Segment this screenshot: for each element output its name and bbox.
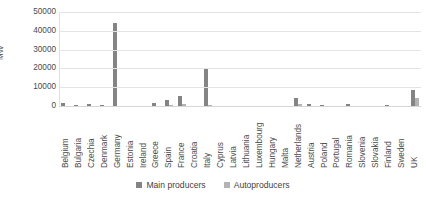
gridline xyxy=(59,68,421,69)
gridline xyxy=(59,50,421,51)
legend-entry[interactable]: Main producers xyxy=(136,181,205,190)
bar-group xyxy=(318,12,331,106)
legend-entry[interactable]: Autoproducers xyxy=(224,181,290,190)
bar-group xyxy=(279,12,292,106)
gridline xyxy=(59,12,421,13)
bar-group xyxy=(408,12,421,106)
bar-group xyxy=(201,12,214,106)
bar-group xyxy=(137,12,150,106)
x-axis-tick-label: Italy xyxy=(203,108,212,168)
bar-group xyxy=(72,12,85,106)
plot-area xyxy=(59,12,421,106)
legend-label: Main producers xyxy=(146,181,205,190)
x-axis-tick-label: Spain xyxy=(164,108,173,168)
bar-group xyxy=(395,12,408,106)
x-axis-category-labels: BelgiumBulgariaCzechiaDenmarkGermanyEsto… xyxy=(59,108,421,170)
bar-group xyxy=(356,12,369,106)
gridline xyxy=(59,31,421,32)
x-axis-tick-label: France xyxy=(177,108,186,168)
chart-legend: Main producersAutoproducers xyxy=(0,177,426,193)
legend-swatch-icon xyxy=(136,182,142,188)
x-axis-tick-label: UK xyxy=(410,108,419,168)
gridline xyxy=(59,87,421,88)
legend-label: Autoproducers xyxy=(234,181,290,190)
x-axis-tick-label: Latvia xyxy=(229,108,238,168)
bar-group xyxy=(305,12,318,106)
x-axis-tick-label: Romania xyxy=(345,108,354,168)
x-axis-tick-label: Slovakia xyxy=(371,108,380,168)
y-axis-tick-label: 30000 xyxy=(33,46,56,54)
bar-group xyxy=(111,12,124,106)
bar-group xyxy=(85,12,98,106)
bar-group xyxy=(266,12,279,106)
x-axis-tick-label: Poland xyxy=(320,108,329,168)
bar-group xyxy=(98,12,111,106)
bar-group xyxy=(162,12,175,106)
legend-swatch-icon xyxy=(224,182,230,188)
bar-group xyxy=(253,12,266,106)
y-axis-tick-label: 10000 xyxy=(33,83,56,91)
x-axis-tick-label: Denmark xyxy=(100,108,109,168)
x-axis-tick-label: Austria xyxy=(307,108,316,168)
y-axis-tick-label: 0 xyxy=(51,102,56,110)
x-axis-tick-label: Slovenia xyxy=(358,108,367,168)
bar-group xyxy=(188,12,201,106)
x-axis-tick-label: Finland xyxy=(384,108,393,168)
x-axis-tick-label: Greece xyxy=(151,108,160,168)
bar-group xyxy=(331,12,344,106)
x-axis-tick-label: Germany xyxy=(113,108,122,168)
bars-layer xyxy=(59,12,421,106)
gridline xyxy=(59,106,421,107)
x-axis-tick-label: Malta xyxy=(281,108,290,168)
y-axis-tick-label: 50000 xyxy=(33,8,56,16)
bar-group xyxy=(382,12,395,106)
x-axis-tick-label: Croatia xyxy=(190,108,199,168)
bar-group xyxy=(59,12,72,106)
x-axis-tick-label: Luxembourg xyxy=(255,108,264,168)
x-axis-tick-label: Lithuania xyxy=(242,108,251,168)
x-axis-tick-label: Cyprus xyxy=(216,108,225,168)
bar xyxy=(415,98,419,106)
x-axis-tick-label: Bulgaria xyxy=(74,108,83,168)
x-axis-tick-label: Hungary xyxy=(268,108,277,168)
y-axis-tick-label: 20000 xyxy=(33,64,56,72)
y-axis-tick-labels: 01000020000300004000050000 xyxy=(18,0,56,112)
x-axis-tick-label: Belgium xyxy=(61,108,70,168)
bar-group xyxy=(343,12,356,106)
bar-group xyxy=(240,12,253,106)
bar-group xyxy=(369,12,382,106)
bar-group xyxy=(124,12,137,106)
bar-group xyxy=(150,12,163,106)
x-axis-tick-label: Czechia xyxy=(87,108,96,168)
bar-group xyxy=(175,12,188,106)
x-axis-tick-label: Portugal xyxy=(332,108,341,168)
x-axis-tick-label: Ireland xyxy=(139,108,148,168)
bar-group xyxy=(292,12,305,106)
y-axis-tick-label: 40000 xyxy=(33,27,56,35)
x-axis-tick-label: Estonia xyxy=(126,108,135,168)
bar-group xyxy=(214,12,227,106)
x-axis-tick-label: Sweden xyxy=(397,108,406,168)
chp-capacity-bar-chart: MW 01000020000300004000050000 BelgiumBul… xyxy=(0,0,426,200)
bar xyxy=(113,23,117,106)
bar-group xyxy=(227,12,240,106)
x-axis-tick-label: Netherlands xyxy=(294,108,303,168)
